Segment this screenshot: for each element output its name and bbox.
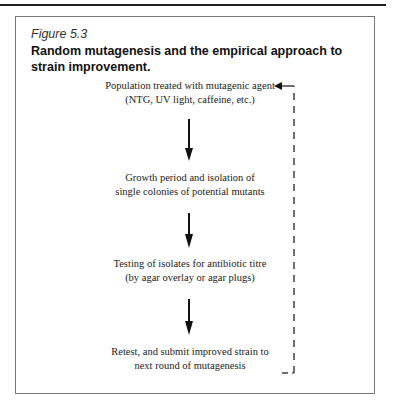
flow-connectors: [0, 0, 394, 417]
down-arrow-icon: [185, 299, 193, 335]
down-arrow-icon: [185, 119, 193, 161]
feedback-loop-arrow-icon: [274, 82, 294, 373]
down-arrow-icon: [185, 213, 193, 248]
